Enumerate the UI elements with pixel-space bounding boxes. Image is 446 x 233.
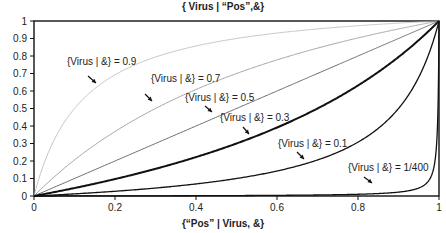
y-tick-label: 0.5 <box>13 103 27 114</box>
y-tick-label: 0.1 <box>13 173 27 184</box>
y-tick-label: 1 <box>21 16 27 27</box>
x-tick-label: 0 <box>31 202 37 213</box>
annotation-label: {Virus | &} = 0.5 <box>185 92 255 103</box>
x-tick-label: 0.2 <box>108 202 122 213</box>
annotation-label: {Virus | &} = 0.1 <box>278 138 348 149</box>
x-tick-label: 1 <box>436 202 442 213</box>
y-tick-label: 0.7 <box>13 68 27 79</box>
x-axis-label: {“Pos” | Virus, &} <box>0 218 446 229</box>
y-tick-label: 0.2 <box>13 156 27 167</box>
x-tick-label: 0.4 <box>189 202 203 213</box>
annotation-label: {Virus | &} = 0.7 <box>151 73 221 84</box>
y-tick-label: 0.6 <box>13 86 27 97</box>
x-tick-label: 0.6 <box>270 202 284 213</box>
annotation-label: {Virus | &} = 1/400 <box>348 162 429 173</box>
annotation-label: {Virus | &} = 0.9 <box>67 56 137 67</box>
chart-plot: 00.10.20.30.40.50.60.70.80.9100.20.40.60… <box>0 0 446 233</box>
annotation-label: {Virus | &} = 0.3 <box>220 112 290 123</box>
y-tick-label: 0.4 <box>13 121 27 132</box>
y-tick-label: 0.3 <box>13 138 27 149</box>
y-tick-label: 0 <box>21 191 27 202</box>
x-tick-label: 0.8 <box>351 202 365 213</box>
y-tick-label: 0.8 <box>13 51 27 62</box>
y-tick-label: 0.9 <box>13 33 27 44</box>
